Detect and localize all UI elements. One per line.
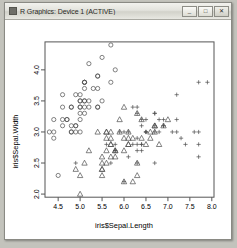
graphics-canvas: 4.55.05.56.06.57.07.58.0 2.02.53.03.54.0…: [5, 20, 231, 239]
y-axis-label: iris$Sepal.Width: [11, 115, 20, 169]
close-button[interactable]: ✕: [214, 6, 229, 17]
y-tick-label: 3.5: [33, 96, 40, 106]
x-tick-label: 5.5: [97, 203, 107, 210]
window-title: R Graphics: Device 1 (ACTIVE): [20, 8, 182, 15]
minimize-button[interactable]: _: [182, 6, 197, 17]
y-tick-label: 2.0: [33, 189, 40, 199]
r-graphics-window: R Graphics: Device 1 (ACTIVE) _ □ ✕ 4.55…: [4, 2, 232, 240]
x-axis-label: iris$Sepal.Length: [95, 221, 153, 230]
scatter-plot: 4.55.05.56.06.57.07.58.0 2.02.53.03.54.0…: [5, 20, 231, 239]
maximize-icon: □: [199, 8, 212, 14]
window-controls: _ □ ✕: [182, 6, 229, 17]
close-icon: ✕: [215, 8, 228, 14]
screen: R Graphics: Device 1 (ACTIVE) _ □ ✕ 4.55…: [0, 0, 237, 248]
x-tick-label: 5.0: [75, 203, 85, 210]
x-tick-label: 7.5: [185, 203, 195, 210]
y-tick-label: 4.0: [33, 65, 40, 75]
y-tick-label: 2.5: [33, 158, 40, 168]
r-graphics-icon: [9, 7, 17, 15]
minimize-icon: _: [183, 8, 196, 14]
maximize-button[interactable]: □: [198, 6, 213, 17]
window-titlebar[interactable]: R Graphics: Device 1 (ACTIVE) _ □ ✕: [5, 3, 231, 20]
x-tick-label: 6.5: [141, 203, 151, 210]
x-tick-label: 6.0: [119, 203, 129, 210]
x-tick-label: 8.0: [207, 203, 217, 210]
x-tick-label: 7.0: [163, 203, 173, 210]
y-tick-label: 3.0: [33, 127, 40, 137]
x-tick-label: 4.5: [53, 203, 63, 210]
